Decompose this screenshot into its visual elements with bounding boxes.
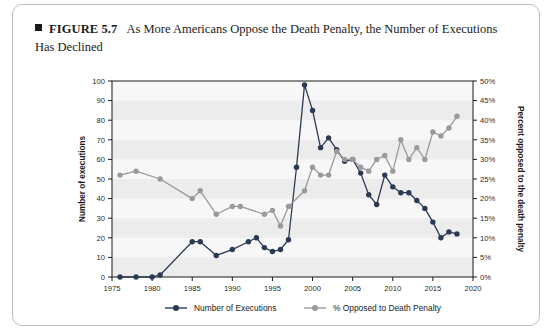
data-point bbox=[190, 196, 195, 201]
data-point bbox=[302, 188, 307, 193]
data-point bbox=[326, 135, 331, 140]
data-point bbox=[406, 157, 411, 162]
data-point bbox=[286, 204, 291, 209]
data-point bbox=[198, 239, 203, 244]
left-tick-label: 10 bbox=[97, 253, 105, 262]
data-point bbox=[406, 190, 411, 195]
data-point bbox=[246, 239, 251, 244]
right-axis-ticks: 0%5%10%15%20%25%30%35%40%45%50% bbox=[473, 77, 495, 282]
band-stripe bbox=[112, 218, 473, 238]
data-point bbox=[149, 274, 154, 279]
x-tick-label: 2010 bbox=[384, 284, 401, 293]
legend-marker bbox=[312, 305, 318, 311]
data-point bbox=[278, 247, 283, 252]
data-point bbox=[398, 137, 403, 142]
band-stripe bbox=[112, 101, 473, 121]
x-tick-label: 1980 bbox=[144, 284, 161, 293]
data-point bbox=[366, 168, 371, 173]
right-axis-title: Percent opposed to the death penalty bbox=[516, 106, 525, 252]
left-tick-label: 100 bbox=[92, 77, 105, 86]
right-tick-label: 25% bbox=[480, 175, 495, 184]
x-tick-label: 2020 bbox=[465, 284, 482, 293]
data-point bbox=[238, 204, 243, 209]
right-tick-label: 5% bbox=[480, 253, 491, 262]
data-point bbox=[214, 253, 219, 258]
figure-header: FIGURE 5.7As More Americans Oppose the D… bbox=[35, 19, 511, 55]
right-tick-label: 20% bbox=[480, 194, 495, 203]
x-tick-label: 1985 bbox=[184, 284, 201, 293]
left-tick-label: 60 bbox=[97, 155, 105, 164]
data-point bbox=[310, 165, 315, 170]
data-point bbox=[157, 176, 162, 181]
data-point bbox=[117, 274, 122, 279]
data-point bbox=[133, 168, 138, 173]
data-point bbox=[366, 192, 371, 197]
data-point bbox=[374, 157, 379, 162]
data-point bbox=[422, 206, 427, 211]
data-point bbox=[326, 172, 331, 177]
data-point bbox=[350, 157, 355, 162]
data-point bbox=[454, 231, 459, 236]
data-point bbox=[198, 188, 203, 193]
left-tick-label: 80 bbox=[97, 116, 105, 125]
data-point bbox=[374, 202, 379, 207]
x-tick-label: 2000 bbox=[304, 284, 321, 293]
right-tick-label: 35% bbox=[480, 136, 495, 145]
left-tick-label: 0 bbox=[101, 273, 105, 282]
data-point bbox=[310, 108, 315, 113]
data-point bbox=[262, 245, 267, 250]
data-point bbox=[422, 157, 427, 162]
data-point bbox=[358, 170, 363, 175]
legend-marker bbox=[173, 305, 179, 311]
left-tick-label: 20 bbox=[97, 234, 105, 243]
band-stripes bbox=[112, 81, 473, 277]
left-tick-label: 30 bbox=[97, 214, 105, 223]
data-point bbox=[438, 235, 443, 240]
data-point bbox=[270, 208, 275, 213]
data-point bbox=[318, 172, 323, 177]
data-point bbox=[294, 165, 299, 170]
data-point bbox=[430, 129, 435, 134]
right-tick-label: 30% bbox=[480, 155, 495, 164]
right-tick-label: 10% bbox=[480, 234, 495, 243]
x-tick-label: 1975 bbox=[104, 284, 121, 293]
left-tick-label: 40 bbox=[97, 194, 105, 203]
right-tick-label: 50% bbox=[480, 77, 495, 86]
data-point bbox=[382, 172, 387, 177]
data-point bbox=[342, 157, 347, 162]
data-point bbox=[430, 219, 435, 224]
right-tick-label: 15% bbox=[480, 214, 495, 223]
data-point bbox=[270, 249, 275, 254]
data-point bbox=[262, 212, 267, 217]
left-tick-label: 90 bbox=[97, 96, 105, 105]
data-point bbox=[446, 125, 451, 130]
data-point bbox=[438, 133, 443, 138]
square-bullet-icon bbox=[35, 24, 42, 31]
data-point bbox=[318, 145, 323, 150]
data-point bbox=[358, 165, 363, 170]
chart-plot-area: 0102030405060708090100 0%5%10%15%20%25%3… bbox=[13, 65, 541, 325]
data-point bbox=[157, 272, 162, 277]
left-tick-label: 70 bbox=[97, 136, 105, 145]
left-axis-ticks: 0102030405060708090100 bbox=[92, 77, 112, 282]
x-tick-label: 1990 bbox=[224, 284, 241, 293]
chart-legend: Number of Executions% Opposed to Death P… bbox=[165, 303, 442, 313]
legend-label: Number of Executions bbox=[194, 303, 276, 313]
right-tick-label: 0% bbox=[480, 273, 491, 282]
data-point bbox=[446, 229, 451, 234]
left-axis-title: Number of executions bbox=[78, 136, 87, 222]
data-point bbox=[230, 204, 235, 209]
data-point bbox=[390, 168, 395, 173]
right-tick-label: 40% bbox=[480, 116, 495, 125]
data-point bbox=[190, 239, 195, 244]
figure-number-label: FIGURE 5.7 bbox=[49, 22, 117, 36]
x-axis-ticks: 1975198019851990199520002005201020152020 bbox=[104, 277, 482, 293]
data-point bbox=[117, 172, 122, 177]
data-point bbox=[254, 235, 259, 240]
x-tick-label: 2015 bbox=[424, 284, 441, 293]
data-point bbox=[398, 190, 403, 195]
data-point bbox=[286, 237, 291, 242]
left-tick-label: 50 bbox=[97, 175, 105, 184]
data-point bbox=[230, 247, 235, 252]
data-point bbox=[414, 198, 419, 203]
